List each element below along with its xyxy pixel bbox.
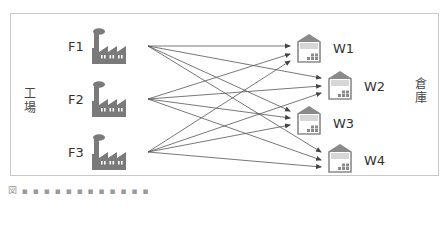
factory-label-f3: F3 — [68, 146, 84, 159]
warehouse-label-w1: W1 — [333, 42, 354, 55]
factory-label-f2: F2 — [68, 93, 84, 106]
warehouse-icon — [329, 72, 351, 99]
warehouse-label-w3: W3 — [333, 117, 354, 130]
factory-icon — [92, 28, 126, 64]
warehouse-label-w4: W4 — [364, 154, 385, 167]
edge-f2-w1 — [148, 54, 290, 99]
factory-icon — [92, 81, 126, 117]
nodes-layer — [92, 28, 351, 172]
warehouse-icon — [298, 35, 320, 62]
edge-f2-w4 — [148, 99, 321, 160]
warehouse-group-label: 倉庫 — [414, 78, 428, 106]
factory-icon — [92, 134, 126, 170]
edges-layer — [148, 46, 321, 167]
edge-f2-w3 — [148, 99, 290, 118]
edge-f3-w4 — [148, 152, 321, 167]
factory-label-f1: F1 — [68, 40, 84, 53]
warehouse-icon — [298, 107, 320, 134]
edge-f1-w3 — [148, 46, 290, 111]
edge-f3-w2 — [148, 93, 321, 152]
edge-f2-w2 — [148, 86, 321, 99]
warehouse-label-w2: W2 — [364, 80, 385, 93]
warehouse-icon — [329, 145, 351, 172]
factory-group-label: 工場 — [23, 88, 37, 116]
figure-caption: 図 ▪ ▪ ▪ ▪ ▪ ▪ ▪ ▪ ▪ ▪ ▪ ▪ — [8, 187, 150, 194]
